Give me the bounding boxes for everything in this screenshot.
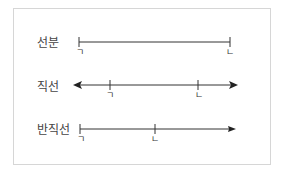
line-point-b: ㄴ xyxy=(195,90,203,100)
geometry-diagram: ㄱ ㄴ ㄱ ㄴ ㄱ ㄴ xyxy=(0,0,285,172)
ray-point-a: ㄱ xyxy=(77,134,85,144)
segment-figure xyxy=(79,37,230,47)
segment-point-b: ㄴ xyxy=(226,47,234,57)
ray-figure xyxy=(80,124,231,134)
segment-point-a: ㄱ xyxy=(76,47,84,57)
arrow-right-icon xyxy=(228,126,236,132)
line-figure xyxy=(78,80,233,90)
line-point-a: ㄱ xyxy=(106,90,114,100)
ray-point-b: ㄴ xyxy=(151,134,159,144)
